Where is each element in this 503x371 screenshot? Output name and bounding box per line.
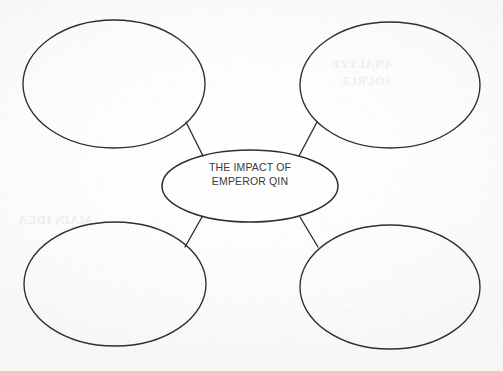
center-node-ellipse[interactable] — [162, 150, 338, 222]
connector-center-to-bottom-right — [300, 217, 318, 247]
branch-node-bottom-left[interactable] — [24, 222, 206, 346]
concept-map-canvas — [0, 0, 503, 371]
worksheet-page: ANALYZE SOURCE MAIN IDEA THE IMPACT OF E… — [0, 0, 503, 371]
branch-node-top-right[interactable] — [300, 22, 480, 148]
branch-node-top-left[interactable] — [23, 20, 205, 148]
connector-center-to-bottom-left — [185, 217, 202, 247]
connector-center-to-top-right — [299, 122, 317, 156]
connector-center-to-top-left — [186, 122, 203, 156]
branch-node-bottom-right[interactable] — [300, 225, 480, 349]
